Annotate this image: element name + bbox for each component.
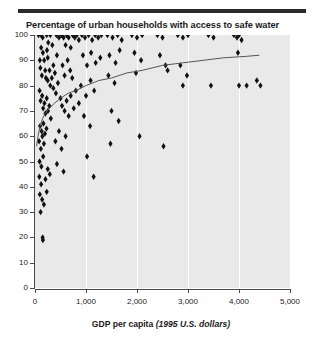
y-tick-label-0: 0 [2, 284, 28, 292]
x-tick-label-1000: 1,000 [64, 297, 108, 306]
y-tick-50 [30, 162, 35, 163]
plot-area [35, 35, 290, 288]
y-tick-label-70: 70 [2, 107, 28, 115]
trend-line [37, 55, 260, 146]
x-tick-3000 [188, 289, 189, 293]
y-tick-100 [30, 35, 35, 36]
trend-line-layer [35, 35, 290, 288]
x-tick-label-4000: 4,000 [217, 297, 261, 306]
y-tick-10 [30, 263, 35, 264]
y-tick-60 [30, 136, 35, 137]
x-tick-0 [35, 289, 36, 293]
y-tick-40 [30, 187, 35, 188]
x-tick-1000 [86, 289, 87, 293]
y-tick-label-60: 60 [2, 132, 28, 140]
x-tick-label-3000: 3,000 [166, 297, 210, 306]
y-tick-label-20: 20 [2, 233, 28, 241]
y-tick-30 [30, 212, 35, 213]
x-tick-label-5000: 5,000 [268, 297, 312, 306]
y-tick-label-50: 50 [2, 158, 28, 166]
header-rule [18, 9, 306, 13]
chart-figure: Percentage of urban households with acce… [0, 0, 322, 342]
y-tick-label-100: 100 [2, 31, 28, 39]
y-axis-tick-labels: 0102030405060708090100 [0, 0, 28, 342]
x-tick-label-0: 0 [13, 297, 57, 306]
y-tick-label-10: 10 [2, 259, 28, 267]
chart-title: Percentage of urban households with acce… [26, 20, 316, 30]
x-axis-caption-units: (1995 U.S. dollars) [156, 319, 231, 329]
x-axis-line [35, 289, 291, 290]
x-tick-label-2000: 2,000 [115, 297, 159, 306]
y-tick-label-80: 80 [2, 82, 28, 90]
y-tick-90 [30, 60, 35, 61]
y-tick-label-40: 40 [2, 183, 28, 191]
y-tick-20 [30, 237, 35, 238]
y-tick-70 [30, 111, 35, 112]
x-tick-5000 [290, 289, 291, 293]
x-axis-caption: GDP per capita (1995 U.S. dollars) [0, 319, 322, 329]
y-tick-80 [30, 86, 35, 87]
x-tick-2000 [137, 289, 138, 293]
y-tick-label-90: 90 [2, 56, 28, 64]
y-tick-label-30: 30 [2, 208, 28, 216]
x-tick-4000 [239, 289, 240, 293]
x-axis-caption-main: GDP per capita [92, 319, 153, 329]
